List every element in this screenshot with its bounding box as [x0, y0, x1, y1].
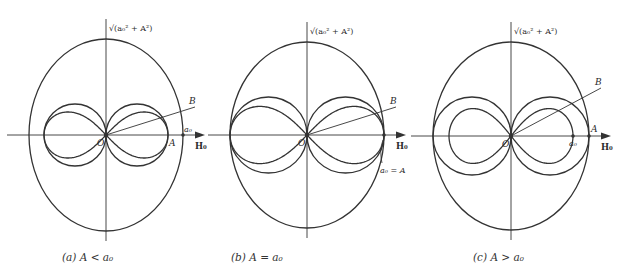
b-label: B: [594, 77, 602, 87]
panel-a: [7, 19, 205, 241]
caption-c: (c) A > a₀: [473, 251, 524, 263]
a0-label: a₀: [184, 125, 193, 134]
panel-b: [208, 22, 406, 238]
top-radius-label: √(a₀² + A²): [514, 27, 557, 36]
h0-axis-label: H₀: [396, 141, 408, 151]
origin-label: O: [298, 138, 306, 148]
h0-axis-label: H₀: [601, 142, 613, 152]
panel-c: [411, 22, 611, 240]
arrow-head-icon: [601, 133, 611, 140]
top-radius-label: √(a₀² + A²): [109, 24, 152, 33]
origin-label: O: [97, 138, 105, 148]
caption-a: (a) A < a₀: [62, 251, 113, 263]
b-label: B: [389, 96, 397, 106]
a-label: A: [168, 138, 176, 148]
labels-c: √(a₀² + A²)OBH₀Aa₀: [502, 27, 613, 152]
line-ob: [511, 88, 601, 136]
figure-canvas: √(a₀² + A²)OBH₀Aa₀√(a₀² + A²)OBH₀a₀ = A√…: [0, 0, 626, 274]
labels-b: √(a₀² + A²)OBH₀a₀ = A: [298, 27, 408, 175]
arrow-head-icon: [396, 132, 406, 139]
origin-point: [509, 134, 513, 138]
origin-point: [305, 133, 309, 137]
labels-a: √(a₀² + A²)OBH₀Aa₀: [97, 24, 207, 151]
a0-label: a₀: [569, 139, 578, 148]
b-label: B: [188, 96, 196, 106]
a0-point: [571, 134, 575, 138]
origin-label: O: [502, 139, 510, 149]
a0-equals-a-label: a₀ = A: [380, 166, 406, 175]
origin-point: [104, 133, 108, 137]
oval-axis-point: [382, 133, 386, 137]
arrow-head-icon: [195, 132, 205, 139]
h0-axis-label: H₀: [195, 141, 207, 151]
top-radius-label: √(a₀² + A²): [310, 27, 353, 36]
a-label: A: [590, 124, 598, 134]
caption-b: (b) A = a₀: [231, 251, 283, 263]
oval-axis-point: [587, 134, 591, 138]
